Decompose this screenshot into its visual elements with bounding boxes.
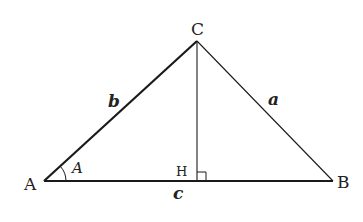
angle-a-arc bbox=[61, 167, 67, 182]
side-label-b: b bbox=[108, 91, 120, 111]
side-label-a: a bbox=[268, 89, 279, 109]
triangle-diagram: C A B H b a c A bbox=[0, 0, 363, 222]
foot-label-h: H bbox=[176, 164, 187, 179]
vertex-label-c: C bbox=[191, 19, 204, 39]
side-a bbox=[197, 41, 333, 181]
angle-label-a: A bbox=[70, 159, 83, 177]
vertex-label-a: A bbox=[23, 174, 37, 194]
side-label-c: c bbox=[173, 183, 184, 203]
right-angle-mark bbox=[197, 172, 206, 181]
vertex-label-b: B bbox=[337, 172, 350, 192]
side-b bbox=[44, 41, 197, 181]
